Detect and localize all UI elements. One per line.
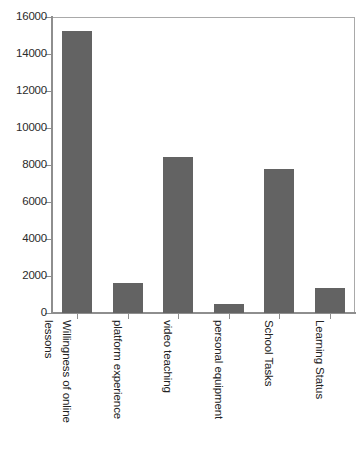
bar bbox=[163, 157, 193, 313]
x-axis-line bbox=[51, 312, 356, 314]
bar bbox=[62, 31, 92, 313]
x-axis-tick bbox=[128, 313, 129, 319]
x-axis-tick bbox=[77, 313, 78, 319]
x-axis-tick bbox=[178, 313, 179, 319]
bar bbox=[214, 304, 244, 313]
plot-area bbox=[52, 17, 355, 313]
y-axis-tick-label: 0 bbox=[0, 306, 47, 318]
bar bbox=[264, 169, 294, 313]
x-axis-tick bbox=[229, 313, 230, 319]
y-axis-tick-label: 16000 bbox=[0, 10, 47, 22]
x-axis-label: Learning Status bbox=[314, 320, 326, 399]
x-axis-tick bbox=[330, 313, 331, 319]
x-axis-label: personal equipment bbox=[213, 320, 225, 419]
y-axis-tick-label: 8000 bbox=[0, 158, 47, 170]
x-axis-label: School Tasks bbox=[263, 320, 275, 386]
y-axis-tick-label: 4000 bbox=[0, 232, 47, 244]
y-axis-tick-label: 6000 bbox=[0, 195, 47, 207]
x-axis-label: video teaching bbox=[162, 320, 174, 393]
x-axis-label: Willingness of online bbox=[61, 320, 73, 423]
bar bbox=[315, 288, 345, 313]
x-axis-label: lessons bbox=[43, 320, 55, 358]
y-axis-tick-label: 14000 bbox=[0, 47, 47, 59]
x-axis-label: platform experience bbox=[112, 320, 124, 419]
y-axis-tick-label: 12000 bbox=[0, 84, 47, 96]
y-axis-tick-label: 10000 bbox=[0, 121, 47, 133]
chart-page: 0200040006000800010000120001400016000 le… bbox=[0, 0, 364, 450]
bar bbox=[113, 283, 143, 313]
y-axis-tick-label: 2000 bbox=[0, 269, 47, 281]
x-axis-tick bbox=[279, 313, 280, 319]
